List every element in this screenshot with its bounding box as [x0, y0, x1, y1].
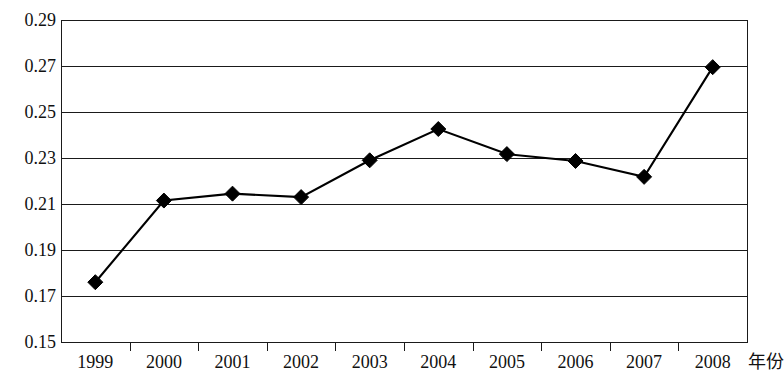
data-point-marker: [225, 186, 240, 201]
data-point-marker: [499, 147, 514, 162]
data-point-marker: [637, 169, 652, 184]
data-point-marker: [362, 153, 377, 168]
x-axis-tick-label: 2008: [673, 352, 753, 372]
data-point-marker: [294, 190, 309, 205]
data-point-marker: [705, 60, 720, 75]
x-axis-title-label: 年份: [748, 352, 784, 372]
x-axis-tick-labels: 年份 1999200020012002200320042005200620072…: [0, 352, 781, 382]
data-point-marker: [568, 153, 583, 168]
data-point-marker: [431, 122, 446, 137]
